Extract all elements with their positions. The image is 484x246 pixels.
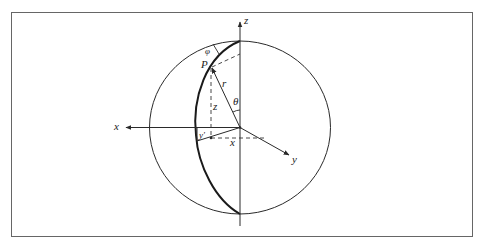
foot-point <box>210 137 213 140</box>
theta-label: θ <box>233 95 239 107</box>
spherical-coordinates-diagram: z x y P r θ φ z x y' <box>0 0 484 246</box>
z-axis-label: z <box>243 14 249 26</box>
dashed-p-to-z-axis <box>212 54 240 67</box>
x-component-label: x <box>229 136 235 148</box>
phi-arc <box>213 44 219 54</box>
figure-frame <box>12 13 473 237</box>
phi-label: φ <box>205 46 210 56</box>
radius-label: r <box>222 77 227 89</box>
y-axis <box>240 128 289 156</box>
theta-arc <box>233 110 240 112</box>
y-axis-label: y <box>291 153 297 165</box>
x-axis-label: x <box>113 120 119 132</box>
z-component-label: z <box>212 100 218 112</box>
y-component-label: y' <box>198 130 206 140</box>
point-p-label: P <box>200 58 208 70</box>
origin-point <box>239 126 242 129</box>
